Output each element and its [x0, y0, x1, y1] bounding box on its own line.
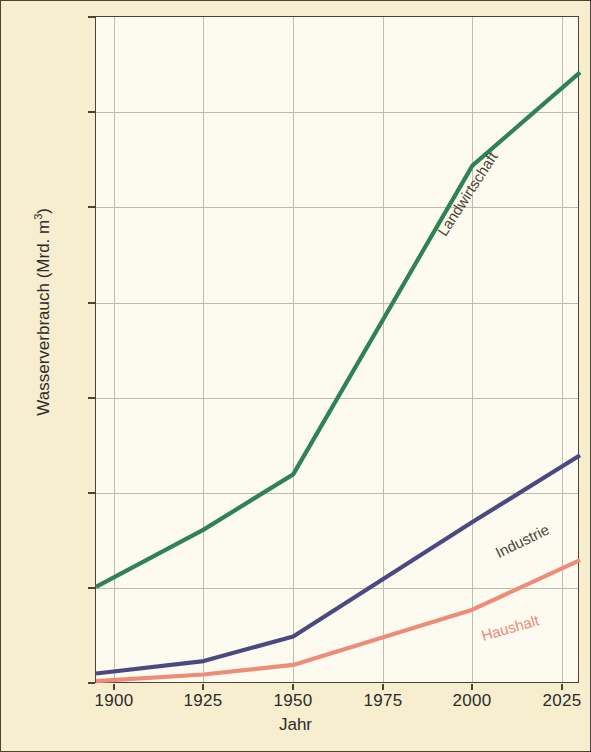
xtick-label-1900: 1900 — [94, 691, 133, 711]
xtick-mark-1925 — [202, 684, 204, 690]
plot-area: Landwirtschaft Industrie Haushalt — [95, 16, 579, 683]
ytick-mark-3000 — [88, 111, 95, 113]
ytick-mark-500 — [88, 587, 95, 589]
line-industrie — [96, 455, 580, 673]
ytick-mark-0 — [88, 682, 95, 684]
ytick-mark-1500 — [88, 397, 95, 399]
xtick-label-2000: 2000 — [452, 691, 491, 711]
xtick-label-1975: 1975 — [363, 691, 402, 711]
xtick-mark-1950 — [292, 684, 294, 690]
x-axis-label: Jahr — [1, 715, 590, 735]
ytick-mark-2500 — [88, 206, 95, 208]
ytick-mark-1000 — [88, 492, 95, 494]
xtick-mark-1900 — [113, 684, 115, 690]
xtick-mark-2025 — [561, 684, 563, 690]
line-landwirtschaft — [96, 72, 580, 587]
y-axis-label-exponent: 3 — [32, 214, 44, 220]
chart-figure: Landwirtschaft Industrie Haushalt 3500 3… — [0, 0, 591, 752]
ytick-mark-2000 — [88, 302, 95, 304]
y-axis-label: Wasserverbrauch (Mrd. m3) — [32, 102, 54, 522]
series-lines — [96, 17, 580, 684]
xtick-mark-1975 — [382, 684, 384, 690]
xtick-mark-2000 — [471, 684, 473, 690]
xtick-label-2025: 2025 — [542, 691, 581, 711]
y-axis-label-tail: ) — [34, 208, 53, 214]
y-axis-label-text: Wasserverbrauch (Mrd. m — [34, 220, 53, 416]
ytick-mark-3500 — [88, 16, 95, 18]
xtick-label-1925: 1925 — [183, 691, 222, 711]
xtick-label-1950: 1950 — [273, 691, 312, 711]
